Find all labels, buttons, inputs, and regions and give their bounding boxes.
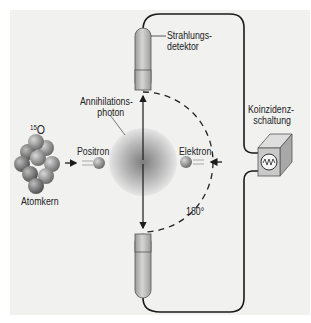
detector-top xyxy=(135,28,166,90)
positron-particle xyxy=(93,157,105,169)
detector-bottom xyxy=(135,234,151,298)
nucleus-label: Atomkern xyxy=(21,196,59,207)
electron-particle xyxy=(180,156,192,168)
positron-label: Positron xyxy=(77,146,109,157)
atom-nucleus xyxy=(14,134,60,194)
electron-label: Elektron xyxy=(179,146,211,157)
pet-diagram xyxy=(0,0,311,323)
isotope-label: 15O xyxy=(30,122,45,136)
detector-label: Strahlungs- detektor xyxy=(167,30,212,52)
angle-label: 180° xyxy=(186,206,204,217)
annihilation-photon-label: Annihilations- photon xyxy=(80,96,133,118)
coincidence-label: Koinzidenz- schaltung xyxy=(248,104,294,126)
coincidence-circuit xyxy=(258,134,292,176)
wire-bottom xyxy=(143,171,260,312)
